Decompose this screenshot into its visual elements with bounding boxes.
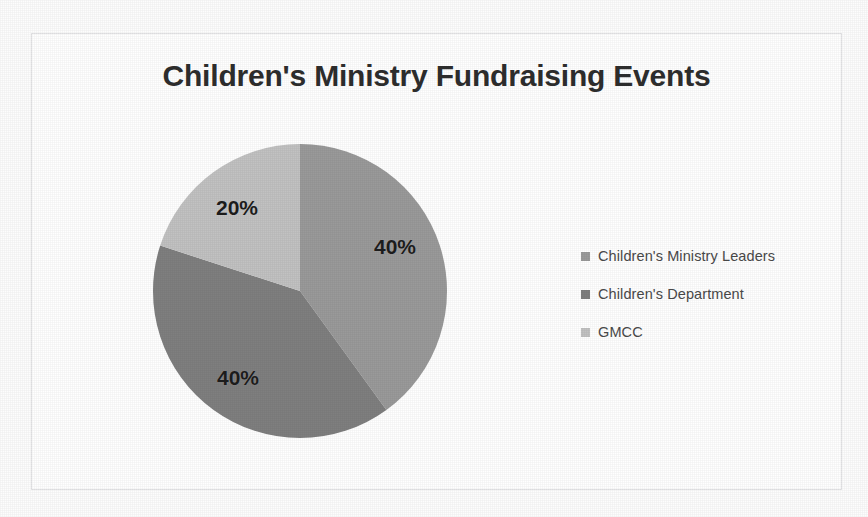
scanned-page-canvas: Children's Ministry Fundraising Events 4… bbox=[0, 0, 868, 517]
legend-item-children-s-ministry-leaders: Children's Ministry Leaders bbox=[581, 246, 833, 266]
pie-chart: 40% 40% 20% bbox=[152, 143, 448, 439]
legend-item-gmcc: GMCC bbox=[581, 322, 833, 342]
legend-item-children-s-department: Children's Department bbox=[581, 284, 833, 304]
legend-swatch-icon bbox=[581, 328, 590, 337]
pie-slice-label-children-s-department: 40% bbox=[217, 366, 259, 390]
chart-legend: Children's Ministry Leaders Children's D… bbox=[581, 246, 833, 360]
legend-item-label: Children's Department bbox=[598, 286, 744, 302]
legend-swatch-icon bbox=[581, 290, 590, 299]
pie-slice-label-children-s-ministry-leaders: 40% bbox=[374, 235, 416, 259]
legend-swatch-icon bbox=[581, 252, 590, 261]
legend-item-label: GMCC bbox=[598, 324, 643, 340]
pie-chart-svg bbox=[152, 143, 448, 439]
legend-item-label: Children's Ministry Leaders bbox=[598, 248, 775, 264]
chart-title: Children's Ministry Fundraising Events bbox=[31, 56, 842, 96]
pie-slice-label-gmcc: 20% bbox=[216, 196, 258, 220]
